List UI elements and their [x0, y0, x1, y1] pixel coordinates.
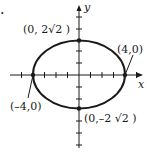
leader-right — [125, 55, 133, 75]
figure-marker: . — [0, 2, 4, 16]
vertex-bottom — [77, 106, 81, 110]
x-axis-label: x — [138, 79, 144, 90]
vertex-top — [77, 38, 81, 42]
point-label-top: (0, 2√2 ) — [23, 24, 70, 35]
point-label-bottom: (0,–2 √2 ) — [84, 113, 137, 124]
leader-left — [28, 75, 33, 98]
y-axis — [76, 5, 82, 148]
point-label-left: (–4,0) — [10, 101, 42, 112]
point-label-right: (4,0) — [117, 44, 143, 55]
y-axis-label: y — [84, 2, 90, 13]
